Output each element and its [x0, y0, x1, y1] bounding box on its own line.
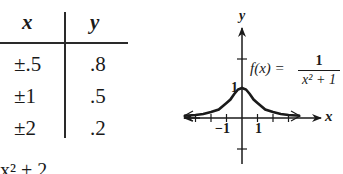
fraction-denominator: x² + 1 — [298, 72, 340, 88]
x-axis-label: x — [325, 108, 333, 125]
function-label: f(x) = — [250, 60, 285, 77]
x-tick-label-neg1: −1 — [215, 121, 230, 137]
fraction-bar — [298, 70, 340, 71]
y-tick-label-1: 1 — [231, 80, 238, 96]
y-axis-label: y — [239, 8, 245, 24]
x-tick-label-1: 1 — [255, 121, 262, 137]
fraction-numerator: 1 — [298, 53, 340, 69]
function-graph — [0, 0, 343, 174]
function-fraction: 1 x² + 1 — [298, 53, 340, 88]
